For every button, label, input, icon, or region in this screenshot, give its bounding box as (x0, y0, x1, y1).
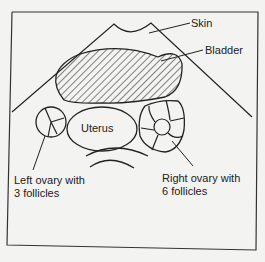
right-ovary-label-line2: 6 follicles (162, 185, 240, 198)
left-ovary-label-line1: Left ovary with (14, 174, 85, 187)
bladder-label: Bladder (205, 44, 243, 57)
left-ovary-label: Left ovary with 3 follicles (14, 174, 85, 200)
skin-label: Skin (191, 17, 212, 30)
uterus-label: Uterus (81, 122, 113, 135)
left-ovary (36, 107, 66, 137)
right-ovary (139, 100, 184, 152)
ultrasound-diagram (0, 0, 265, 262)
right-ovary-label: Right ovary with 6 follicles (162, 172, 240, 198)
right-ovary-label-line1: Right ovary with (162, 172, 240, 185)
left-ovary-label-line2: 3 follicles (14, 187, 85, 200)
bladder-region (56, 49, 182, 104)
